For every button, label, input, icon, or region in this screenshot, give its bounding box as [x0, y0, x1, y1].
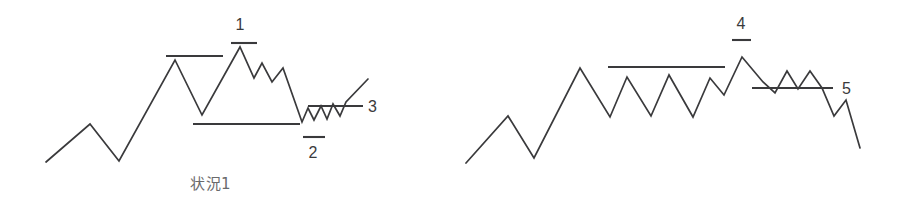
chart-svg-situation-2: 4 5 [450, 0, 900, 216]
wave-label-1: 1 [236, 16, 245, 33]
wave-label-3: 3 [368, 98, 377, 115]
price-path-situation-2 [466, 57, 860, 163]
wave-label-5: 5 [842, 80, 851, 97]
chart-panel-situation-2: 4 5 状況2 [450, 0, 900, 216]
caption-situation-1: 状況1 [190, 172, 231, 193]
price-path-situation-1 [46, 47, 368, 162]
wave-label-2: 2 [309, 144, 318, 161]
diagram-canvas: 1 2 3 状況1 4 5 状況2 [0, 0, 900, 216]
wave-label-4: 4 [737, 15, 746, 32]
chart-panel-situation-1: 1 2 3 状況1 [0, 0, 450, 216]
